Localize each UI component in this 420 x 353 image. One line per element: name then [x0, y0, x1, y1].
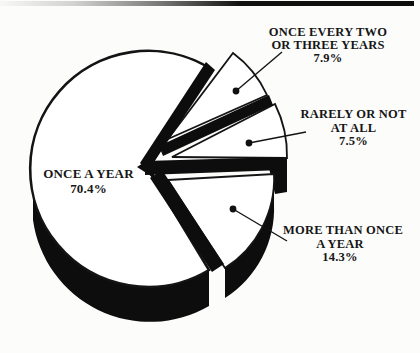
leader-dot-once-every-two-or-three-years: [233, 88, 240, 95]
callout-rarely-or-not-at-all: RARELY OR NOT AT ALL 7.5%: [296, 108, 411, 149]
callout-line: MORE THAN ONCE: [283, 224, 397, 238]
callout-value: 70.4%: [38, 181, 139, 196]
callout-value: 7.5%: [296, 135, 411, 149]
leader-dot-more-than-once-a-year: [230, 206, 237, 213]
callout-once-a-year: ONCE A YEAR 70.4%: [38, 166, 139, 196]
callout-line: ONCE A YEAR: [38, 166, 139, 181]
callout-value: 14.3%: [283, 251, 397, 265]
separator-band-horizontal: [145, 157, 283, 175]
callout-more-than-once-a-year: MORE THAN ONCE A YEAR 14.3%: [283, 224, 397, 265]
callout-value: 7.9%: [263, 52, 393, 65]
callout-line: AT ALL: [296, 122, 411, 136]
scanned-page: ONCE EVERY TWO OR THREE YEARS 7.9% RAREL…: [0, 0, 420, 353]
leader-dot-rarely-or-not-at-all: [246, 140, 253, 147]
callout-line: RARELY OR NOT: [296, 108, 411, 122]
callout-once-every-two-or-three-years: ONCE EVERY TWO OR THREE YEARS 7.9%: [263, 26, 393, 65]
callout-line: A YEAR: [283, 238, 397, 252]
